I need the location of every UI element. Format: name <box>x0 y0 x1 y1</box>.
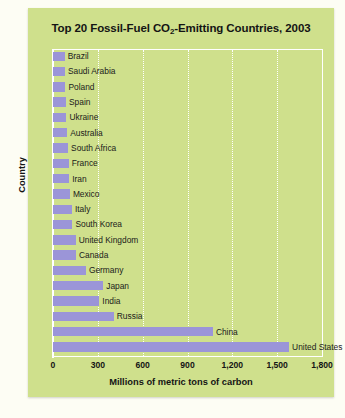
bar-label-italy: Italy <box>75 203 90 215</box>
bar-canada <box>53 250 76 259</box>
bar-india <box>53 296 99 305</box>
bar-row: Mexico <box>53 187 322 202</box>
bar-row: South Africa <box>53 141 322 156</box>
bar-italy <box>53 205 72 214</box>
bar-row: United States <box>53 340 322 355</box>
x-tick-300: 300 <box>91 360 105 370</box>
bar-label-spain: Spain <box>69 96 90 108</box>
bar-france <box>53 159 69 168</box>
x-tick-900: 900 <box>180 360 194 370</box>
bar-row: Saudi Arabia <box>53 64 322 79</box>
bar-label-france: France <box>72 157 98 169</box>
bar-row: United Kingdom <box>53 233 322 248</box>
bar-label-mexico: Mexico <box>73 188 100 200</box>
bar-row: Italy <box>53 202 322 217</box>
bar-row: Brazil <box>53 49 322 64</box>
bar-series: BrazilSaudi ArabiaPolandSpainUkraineAust… <box>53 49 322 355</box>
bar-label-south-africa: South Africa <box>71 142 116 154</box>
bar-poland <box>53 82 65 91</box>
bar-russia <box>53 312 114 321</box>
chart-figure: Top 20 Fossil-Fuel CO2-Emitting Countrie… <box>0 0 345 418</box>
bar-row: Poland <box>53 80 322 95</box>
bar-south-korea <box>53 220 72 229</box>
bar-label-australia: Australia <box>70 127 103 139</box>
bar-row: China <box>53 324 322 339</box>
chart-title-tail: -Emitting Countries, 2003 <box>174 22 310 34</box>
bar-united-kingdom <box>53 235 76 244</box>
bar-ukraine <box>53 113 66 122</box>
bar-south-africa <box>53 143 68 152</box>
bar-label-germany: Germany <box>89 264 123 276</box>
bar-row: South Korea <box>53 217 322 232</box>
x-tick-0: 0 <box>51 360 56 370</box>
bar-row: Canada <box>53 248 322 263</box>
bar-label-united-kingdom: United Kingdom <box>79 234 139 246</box>
bar-row: Ukraine <box>53 110 322 125</box>
bar-row: Spain <box>53 95 322 110</box>
bar-label-ukraine: Ukraine <box>69 111 98 123</box>
bar-label-brazil: Brazil <box>68 50 89 62</box>
bar-label-saudi-arabia: Saudi Arabia <box>68 65 116 77</box>
bar-label-japan: Japan <box>106 280 129 292</box>
bar-label-canada: Canada <box>79 249 108 261</box>
bar-row: Iran <box>53 171 322 186</box>
x-tick-1800: 1,800 <box>311 360 333 370</box>
bar-row: France <box>53 156 322 171</box>
chart-title: Top 20 Fossil-Fuel CO2-Emitting Countrie… <box>28 22 334 34</box>
bar-label-poland: Poland <box>68 81 94 93</box>
bar-australia <box>53 128 67 137</box>
bar-label-united-states: United States <box>292 341 342 353</box>
bar-label-india: India <box>102 295 120 307</box>
bar-row: India <box>53 294 322 309</box>
bar-brazil <box>53 52 65 61</box>
bar-label-china: China <box>216 326 238 338</box>
x-axis-label: Millions of metric tons of carbon <box>28 377 334 387</box>
x-tick-1200: 1,200 <box>222 360 244 370</box>
bar-row: Germany <box>53 263 322 278</box>
bar-label-iran: Iran <box>72 173 86 185</box>
bar-china <box>53 327 213 336</box>
bar-label-south-korea: South Korea <box>75 218 122 230</box>
y-axis-label: Country <box>17 135 27 215</box>
bar-mexico <box>53 189 70 198</box>
x-tick-600: 600 <box>135 360 149 370</box>
bar-germany <box>53 266 86 275</box>
gridline-1800 <box>322 50 323 356</box>
bar-row: Australia <box>53 126 322 141</box>
bar-united-states <box>53 342 289 351</box>
bar-spain <box>53 97 66 106</box>
bar-row: Japan <box>53 279 322 294</box>
bar-japan <box>53 281 103 290</box>
bar-iran <box>53 174 69 183</box>
bar-label-russia: Russia <box>117 310 143 322</box>
x-tick-1500: 1,500 <box>266 360 288 370</box>
bar-saudi-arabia <box>53 67 65 76</box>
bar-row: Russia <box>53 309 322 324</box>
chart-title-subscript: 2 <box>170 27 174 36</box>
chart-title-main: Top 20 Fossil-Fuel CO <box>52 22 170 34</box>
